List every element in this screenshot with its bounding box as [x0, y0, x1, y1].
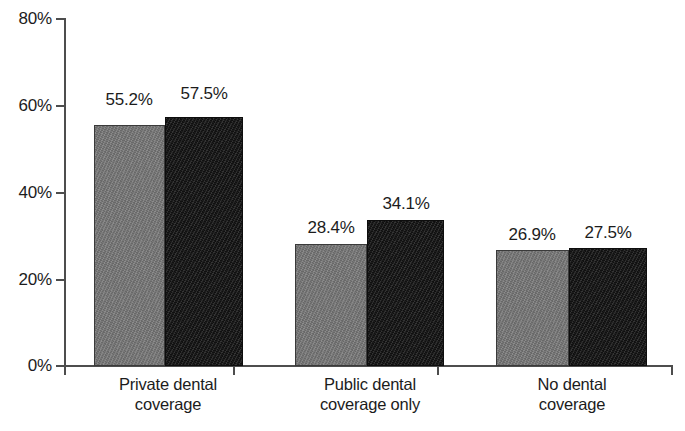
y-axis-label-40: 40% — [0, 183, 52, 203]
bar-group-1-series-1 — [94, 125, 165, 366]
x-axis-category-label-1: Private dental coverage — [119, 374, 217, 414]
x-axis-tick-start — [64, 366, 66, 375]
bar-chart: 80% 60% 40% 20% 0% 55.2% 57.5% 28.4% 34.… — [0, 0, 685, 431]
y-axis-tick-20 — [56, 279, 65, 281]
bar-group-2-series-1 — [295, 244, 367, 366]
y-axis-tick-60 — [56, 105, 65, 107]
x-axis-tick-end — [671, 366, 673, 375]
bar-group-1-series-2 — [165, 117, 243, 366]
x-axis-tick-divider-2 — [437, 366, 439, 375]
y-axis-label-80: 80% — [0, 9, 52, 29]
bar-value-label-group-3-series-2: 27.5% — [584, 223, 631, 243]
y-axis-label-0: 0% — [0, 356, 52, 376]
y-axis-tick-80 — [56, 18, 65, 20]
bar-value-label-group-3-series-1: 26.9% — [508, 225, 555, 245]
y-axis-tick-40 — [56, 192, 65, 194]
bar-group-3-series-2 — [569, 248, 647, 366]
y-axis-label-20: 20% — [0, 270, 52, 290]
bar-value-label-group-1-series-1: 55.2% — [105, 90, 152, 110]
x-axis-category-label-2: Public dental coverage only — [320, 374, 420, 414]
bar-group-3-series-1 — [496, 250, 569, 366]
bar-group-2-series-2 — [367, 220, 444, 366]
bar-value-label-group-1-series-2: 57.5% — [180, 84, 227, 104]
y-axis-label-60: 60% — [0, 96, 52, 116]
bar-value-label-group-2-series-1: 28.4% — [307, 218, 354, 238]
x-axis-tick-divider-1 — [233, 366, 235, 375]
x-axis-category-label-3: No dental coverage — [538, 374, 607, 414]
bar-value-label-group-2-series-2: 34.1% — [382, 194, 429, 214]
